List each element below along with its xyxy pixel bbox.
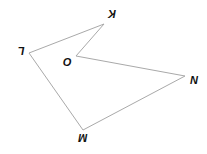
vertex-label-k: K [107, 8, 116, 20]
pentagon-outline [29, 24, 185, 130]
vertex-label-l: L [17, 45, 24, 57]
vertex-label-n: N [190, 74, 199, 86]
vertex-label-m: M [78, 132, 88, 144]
vertex-label-o: O [63, 56, 72, 68]
pentagon-diagram: KLMNO [0, 0, 207, 154]
